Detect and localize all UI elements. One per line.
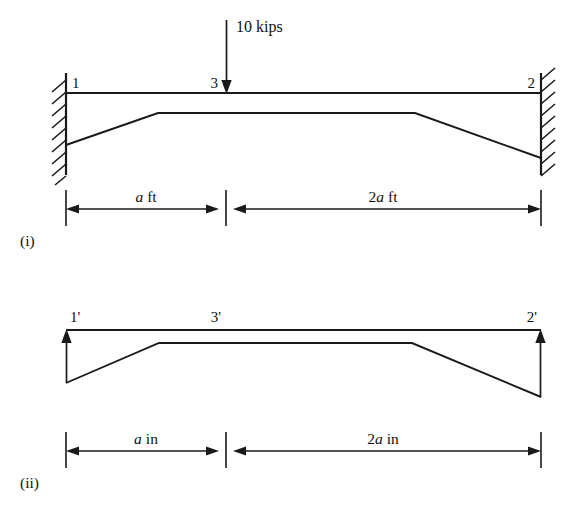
node-label-1: 1 [72,75,80,91]
node-label-2-prime: 2' [527,309,538,325]
left-reaction-arrow [61,329,71,383]
dim-var: a [376,188,384,205]
deflected-shape-i [66,113,541,158]
caption-ii: (ii) [20,474,39,492]
point-load-arrow [221,20,231,94]
node-label-3: 3 [211,75,219,91]
right-reaction-arrow [535,329,545,397]
deflected-shape-ii [66,343,541,397]
beam-figure: 10 kips 1 3 2 aft 2aft (i) 1' 3' 2' ain … [0,0,574,508]
dimension-label-a-ft: aft [135,188,157,205]
dim-unit: ft [147,188,157,205]
panel-i [52,20,555,226]
dimension-label-2a-in: 2ain [367,430,399,447]
node-label-2: 2 [528,75,536,91]
node-label-1-prime: 1' [70,309,81,325]
load-label-10-kips: 10 kips [236,18,283,36]
dim-unit: in [387,430,399,447]
dim-prefix: 2 [367,430,375,447]
panel-ii [61,329,545,468]
dimension-label-2a-ft: 2aft [369,188,399,205]
dim-var: a [134,430,142,447]
hatch-marks-right [541,68,555,176]
node-label-3-prime: 3' [211,309,222,325]
dimension-right-span-i [233,190,541,226]
dim-var: a [375,430,383,447]
hatch-marks-left [52,80,66,185]
dimension-left-span-i [66,190,226,226]
caption-i: (i) [20,232,35,250]
dim-var: a [135,188,143,205]
dim-unit: ft [388,188,398,205]
dim-prefix: 2 [369,188,377,205]
dimension-label-a-in: ain [134,430,158,447]
right-fixed-support [541,68,555,176]
dim-unit: in [146,430,158,447]
left-fixed-support [52,73,66,185]
